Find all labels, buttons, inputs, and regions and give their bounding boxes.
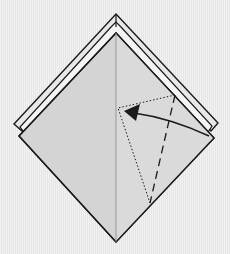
origami-diagram: Diamond-shaped folded paper with a rever… [0,0,230,254]
diagram-canvas [0,0,230,254]
